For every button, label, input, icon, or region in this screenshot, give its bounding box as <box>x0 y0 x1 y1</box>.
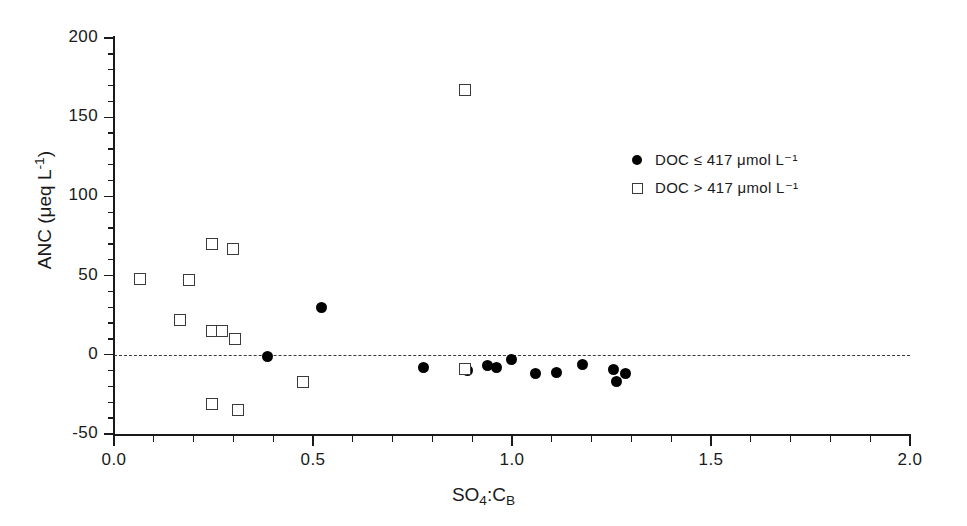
x-axis-title-base2: C <box>492 484 506 505</box>
y-axis-line <box>113 36 115 436</box>
data-point <box>206 238 218 250</box>
x-axis-tick-label: 2.0 <box>880 450 940 470</box>
data-point <box>134 273 146 285</box>
y-axis-minor-tick <box>108 164 114 165</box>
data-point <box>229 333 241 345</box>
x-axis-minor-tick <box>193 436 194 442</box>
x-axis-major-tick <box>312 436 313 446</box>
y-axis-title-exponent: -1 <box>32 157 47 169</box>
y-axis-title: ANC (μeq L-1) <box>32 70 56 350</box>
x-axis-tick-label: 0.5 <box>283 450 343 470</box>
y-axis-major-tick <box>104 196 114 197</box>
data-point <box>459 84 471 96</box>
data-point <box>316 302 327 313</box>
x-axis-minor-tick <box>790 436 791 442</box>
data-point <box>418 362 429 373</box>
y-axis-tick-label: -50 <box>38 423 98 443</box>
x-axis-minor-tick <box>870 436 871 442</box>
x-axis-title-base1: SO <box>452 484 479 505</box>
y-axis-minor-tick <box>108 259 114 260</box>
y-axis-minor-tick <box>108 227 114 228</box>
y-axis-minor-tick <box>108 386 114 387</box>
x-axis-title-sub2: B <box>506 493 515 508</box>
data-point <box>530 368 541 379</box>
x-axis-minor-tick <box>591 436 592 442</box>
x-axis-minor-tick <box>830 436 831 442</box>
legend-entry-doc-high: DOC > 417 μmol L⁻¹ <box>628 174 798 202</box>
x-axis-major-tick <box>113 436 114 446</box>
y-axis-title-prefix: ANC ( <box>34 217 55 269</box>
y-axis-major-tick <box>104 433 114 434</box>
y-axis-minor-tick <box>108 370 114 371</box>
open-square-icon <box>628 183 646 194</box>
data-point <box>297 376 309 388</box>
y-axis-minor-tick <box>108 307 114 308</box>
x-axis-major-tick <box>511 436 512 446</box>
x-axis-minor-tick <box>551 436 552 442</box>
x-axis-tick-label: 1.5 <box>681 450 741 470</box>
y-axis-major-tick <box>104 117 114 118</box>
x-axis-minor-tick <box>671 436 672 442</box>
data-point <box>216 325 228 337</box>
data-point <box>206 398 218 410</box>
data-point <box>262 351 273 362</box>
data-point <box>183 274 195 286</box>
data-point <box>227 243 239 255</box>
x-axis-minor-tick <box>631 436 632 442</box>
x-axis-minor-tick <box>472 436 473 442</box>
x-axis-major-tick <box>710 436 711 446</box>
y-axis-minor-tick <box>108 322 114 323</box>
y-axis-tick-label: 200 <box>38 27 98 47</box>
x-axis-title: SO4:CB <box>0 484 967 508</box>
data-point <box>611 376 622 387</box>
y-axis-major-tick <box>104 275 114 276</box>
x-axis-minor-tick <box>750 436 751 442</box>
y-axis-minor-tick <box>108 132 114 133</box>
data-point <box>577 359 588 370</box>
data-point <box>506 354 517 365</box>
y-axis-minor-tick <box>108 291 114 292</box>
data-point <box>620 368 631 379</box>
x-axis-minor-tick <box>352 436 353 442</box>
legend-entry-doc-low: DOC ≤ 417 μmol L⁻¹ <box>628 146 798 174</box>
data-point <box>174 314 186 326</box>
y-axis-major-tick <box>104 37 114 38</box>
y-axis-minor-tick <box>108 148 114 149</box>
legend-label-doc-low: DOC ≤ 417 μmol L⁻¹ <box>655 151 798 169</box>
y-axis-minor-tick <box>108 85 114 86</box>
filled-circle-icon <box>628 155 646 165</box>
y-axis-title-unit: μeq L <box>34 169 55 217</box>
y-axis-minor-tick <box>108 417 114 418</box>
y-axis-minor-tick <box>108 53 114 54</box>
data-point <box>459 363 471 375</box>
data-point <box>608 364 619 375</box>
x-axis-minor-tick <box>233 436 234 442</box>
x-axis-tick-label: 1.0 <box>482 450 542 470</box>
y-axis-minor-tick <box>108 69 114 70</box>
x-axis-minor-tick <box>273 436 274 442</box>
data-point <box>491 362 502 373</box>
y-axis-minor-tick <box>108 212 114 213</box>
y-axis-minor-tick <box>108 101 114 102</box>
x-axis-minor-tick <box>392 436 393 442</box>
legend: DOC ≤ 417 μmol L⁻¹ DOC > 417 μmol L⁻¹ <box>628 146 798 202</box>
y-axis-major-tick <box>104 354 114 355</box>
x-axis-minor-tick <box>153 436 154 442</box>
x-axis-major-tick <box>909 436 910 446</box>
data-point <box>551 367 562 378</box>
y-axis-minor-tick <box>108 180 114 181</box>
legend-label-doc-high: DOC > 417 μmol L⁻¹ <box>655 179 798 197</box>
scatter-plot-figure: -500501001502000.00.51.01.52.0 ANC (μeq … <box>0 0 967 526</box>
x-axis-minor-tick <box>432 436 433 442</box>
y-axis-minor-tick <box>108 338 114 339</box>
y-axis-title-suffix: ) <box>34 151 55 157</box>
data-point <box>232 404 244 416</box>
y-axis-minor-tick <box>108 402 114 403</box>
x-axis-title-sub1: 4 <box>479 493 487 508</box>
x-axis-tick-label: 0.0 <box>84 450 144 470</box>
y-axis-minor-tick <box>108 243 114 244</box>
